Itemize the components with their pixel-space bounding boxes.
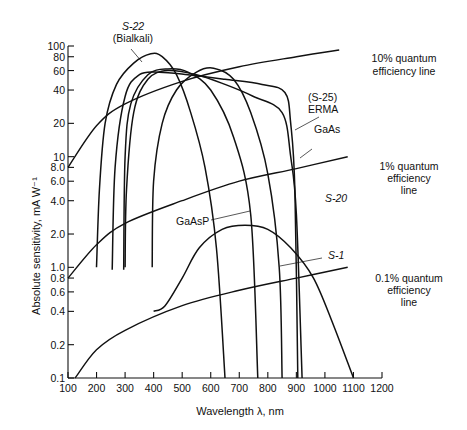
x-tick-label: 1200 bbox=[362, 382, 402, 394]
label-qe01-efficiency: efficiency bbox=[364, 284, 454, 296]
y-tick-label: 0.8 bbox=[50, 272, 65, 284]
y-tick-label: 40 bbox=[53, 84, 65, 96]
label-s25-text: (S-25) bbox=[308, 91, 337, 103]
label-gaas: GaAs bbox=[314, 123, 340, 135]
label-qe1: 1% quantum bbox=[364, 160, 454, 172]
label-qe01: 0.1% quantum bbox=[364, 272, 454, 284]
y-tick-label: 4.0 bbox=[50, 195, 65, 207]
label-qe01-line: line bbox=[364, 296, 454, 308]
label-erma: ERMA bbox=[308, 103, 338, 115]
y-axis-title: Absolute sensitivity, mA W⁻¹ bbox=[30, 146, 42, 346]
y-tick-label: 6.0 bbox=[50, 175, 65, 187]
label-qe1-efficiency: efficiency bbox=[364, 172, 454, 184]
x-axis-title: Wavelength λ, nm bbox=[140, 405, 340, 417]
label-qe1-line: line bbox=[364, 184, 454, 196]
y-tick-label: 0.6 bbox=[50, 286, 65, 298]
curve-gaasp bbox=[152, 68, 282, 378]
y-tick-label: 80 bbox=[53, 51, 65, 63]
y-tick-label: 60 bbox=[53, 65, 65, 77]
label-qe10-line: efficiency line bbox=[354, 65, 454, 77]
label-qe10: 10% quantum bbox=[354, 52, 454, 64]
y-tick-label: 8.0 bbox=[50, 161, 65, 173]
label-s20: S-20 bbox=[325, 192, 347, 204]
y-tick-label: 2.0 bbox=[50, 228, 65, 240]
y-tick-label: 20 bbox=[53, 117, 65, 129]
label-s22: S-22 bbox=[108, 20, 158, 32]
label-s25: (S-25) bbox=[308, 91, 337, 103]
y-tick-label: 0.4 bbox=[50, 305, 65, 317]
label-bialkali: (Bialkali) bbox=[104, 32, 162, 44]
label-gaasp: GaAsP bbox=[176, 215, 209, 227]
curve-0-1-quantum-efficiency-line bbox=[75, 267, 348, 378]
label-s1: S-1 bbox=[328, 249, 344, 261]
y-tick-label: 0.2 bbox=[50, 339, 65, 351]
